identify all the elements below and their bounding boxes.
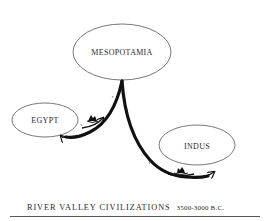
diagram-caption: RIVER VALLEY CIVILIZATIONS 3500-3000 B.C… bbox=[27, 203, 224, 212]
diagram-canvas bbox=[0, 0, 269, 221]
edge-mesopotamia-indus bbox=[122, 81, 214, 177]
boat-icon bbox=[87, 115, 98, 123]
caption-dates: 3500-3000 B.C. bbox=[177, 204, 225, 212]
caption-title: RIVER VALLEY CIVILIZATIONS bbox=[27, 203, 171, 212]
boat-icon bbox=[174, 167, 188, 175]
node-indus-label: INDUS bbox=[184, 142, 210, 151]
river-valley-diagram: MESOPOTAMIA EGYPT INDUS RIVER VALLEY CIV… bbox=[0, 0, 269, 221]
node-mesopotamia-label: MESOPOTAMIA bbox=[91, 48, 152, 57]
node-egypt-label: EGYPT bbox=[31, 116, 58, 125]
caption-underline bbox=[10, 216, 260, 217]
